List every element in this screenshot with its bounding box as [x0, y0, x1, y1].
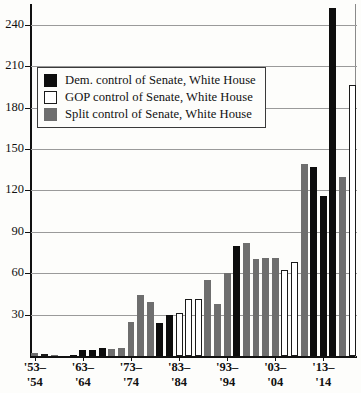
- bar: [185, 299, 192, 356]
- bar: [214, 304, 221, 356]
- bar: [118, 348, 125, 356]
- chart-legend: Dem. control of Senate, White House GOP …: [37, 67, 266, 128]
- bar: [176, 313, 183, 356]
- y-axis-tick-label: 30: [0, 307, 24, 322]
- bar: [147, 302, 154, 356]
- x-axis-tick-label: '13–'14: [293, 360, 353, 390]
- bar: [291, 262, 298, 356]
- legend-swatch-dem-icon: [44, 74, 57, 87]
- legend-item: Split control of Senate, White House: [44, 106, 256, 123]
- bar: [108, 349, 115, 356]
- bar: [195, 299, 202, 356]
- bar: [320, 196, 327, 356]
- x-axis-tick: [323, 356, 324, 361]
- bar: [253, 259, 260, 356]
- bar: [243, 243, 250, 356]
- legend-swatch-split-icon: [44, 108, 57, 121]
- bar: [224, 273, 231, 356]
- bar: [281, 270, 288, 356]
- bar: [310, 167, 317, 356]
- y-axis-tick-label: 210: [0, 58, 24, 73]
- bar: [233, 246, 240, 356]
- bar: [99, 348, 106, 356]
- legend-swatch-gop-icon: [44, 91, 57, 104]
- bar-chart: 306090120150180210240 '53–'54'63–'64'73–…: [0, 0, 361, 393]
- x-axis-tick: [35, 356, 36, 361]
- x-axis-tick: [179, 356, 180, 361]
- y-axis-tick-label: 60: [0, 265, 24, 280]
- bar: [349, 85, 356, 356]
- x-axis-tick: [131, 356, 132, 361]
- bar: [329, 8, 336, 356]
- bar: [204, 280, 211, 356]
- y-axis-tick-label: 90: [0, 224, 24, 239]
- bar: [51, 355, 58, 356]
- x-axis-line: [30, 356, 357, 358]
- y-axis-tick-label: 180: [0, 100, 24, 115]
- bar: [89, 350, 96, 356]
- bar: [339, 177, 346, 356]
- bar: [137, 295, 144, 356]
- bar: [262, 258, 269, 356]
- bar: [166, 315, 173, 356]
- bar: [128, 322, 135, 357]
- bar: [156, 323, 163, 356]
- legend-label-dem: Dem. control of Senate, White House: [65, 73, 256, 88]
- x-axis-tick: [275, 356, 276, 361]
- x-axis-tick: [227, 356, 228, 361]
- legend-label-gop: GOP control of Senate, White House: [65, 90, 253, 105]
- bar: [70, 355, 77, 356]
- y-axis-tick-label: 150: [0, 141, 24, 156]
- legend-item: Dem. control of Senate, White House: [44, 72, 256, 89]
- plot-area: [30, 4, 357, 356]
- legend-label-split: Split control of Senate, White House: [65, 107, 252, 122]
- bar-series-container: [30, 4, 357, 356]
- y-axis-tick-label: 120: [0, 182, 24, 197]
- y-axis-tick-label: 240: [0, 17, 24, 32]
- bar: [301, 164, 308, 356]
- bar: [272, 258, 279, 356]
- bar: [41, 354, 48, 356]
- x-axis-tick: [83, 356, 84, 361]
- legend-item: GOP control of Senate, White House: [44, 89, 256, 106]
